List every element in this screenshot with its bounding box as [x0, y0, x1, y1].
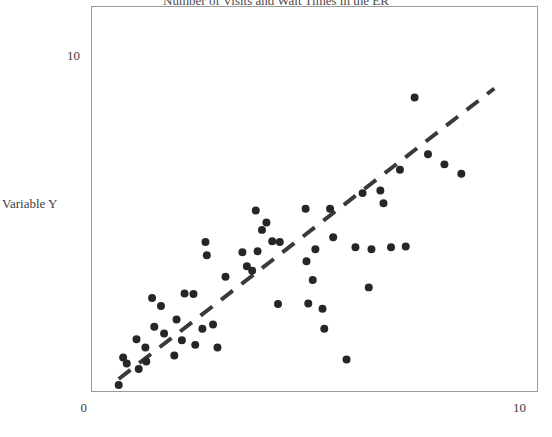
scatter-point — [276, 238, 284, 246]
scatter-point — [376, 186, 384, 194]
scatter-point — [440, 160, 448, 168]
scatter-point — [302, 205, 310, 213]
scatter-point — [258, 226, 266, 234]
scatter-point — [309, 276, 317, 284]
plot-canvas — [92, 7, 537, 391]
trendline — [119, 88, 495, 378]
scatter-point — [303, 257, 311, 265]
scatter-point — [396, 166, 404, 174]
x-axis-tick-10: 10 — [513, 400, 543, 415]
scatter-point — [326, 205, 334, 213]
y-axis-label: Variable Y — [2, 196, 86, 211]
scatter-chart-figure: Number of Visits and Wait Times in the E… — [0, 0, 552, 437]
scatter-point — [198, 325, 206, 333]
scatter-point — [170, 352, 178, 360]
scatter-point — [123, 360, 131, 368]
scatter-point — [115, 381, 123, 389]
scatter-point — [203, 251, 211, 259]
scatter-point — [160, 330, 168, 338]
scatter-point — [254, 247, 262, 255]
scatter-point — [457, 170, 465, 178]
scatter-point — [343, 356, 351, 364]
scatter-point — [320, 325, 328, 333]
scatter-point — [142, 358, 150, 366]
scatter-point — [209, 321, 217, 329]
trendline-segment — [119, 88, 495, 378]
scatter-point — [173, 315, 181, 323]
scatter-points — [115, 94, 466, 389]
scatter-point — [268, 237, 276, 245]
scatter-point — [133, 335, 141, 343]
scatter-point — [201, 238, 209, 246]
scatter-point — [141, 344, 149, 352]
scatter-point — [248, 267, 256, 275]
scatter-point — [222, 273, 230, 281]
scatter-point — [351, 243, 359, 251]
scatter-point — [359, 189, 367, 197]
scatter-point — [411, 94, 419, 102]
scatter-point — [214, 344, 222, 352]
scatter-point — [189, 290, 197, 298]
scatter-point — [365, 283, 373, 291]
scatter-point — [274, 300, 282, 308]
scatter-point — [311, 245, 319, 253]
scatter-point — [387, 243, 395, 251]
plot-area — [91, 6, 538, 392]
scatter-point — [367, 245, 375, 253]
scatter-point — [252, 207, 260, 215]
scatter-point — [402, 243, 410, 251]
scatter-point — [135, 365, 143, 373]
scatter-point — [424, 150, 432, 158]
scatter-point — [157, 302, 165, 310]
scatter-point — [150, 323, 158, 331]
scatter-point — [238, 248, 246, 256]
scatter-point — [181, 289, 189, 297]
scatter-point — [319, 305, 327, 313]
y-axis-tick-10: 10 — [44, 48, 80, 63]
scatter-point — [148, 294, 156, 302]
scatter-point — [329, 233, 337, 241]
scatter-point — [304, 299, 312, 307]
scatter-point — [262, 219, 270, 227]
x-axis-tick-0: 0 — [57, 400, 87, 415]
scatter-point — [178, 336, 186, 344]
scatter-point — [191, 341, 199, 349]
scatter-point — [379, 199, 387, 207]
